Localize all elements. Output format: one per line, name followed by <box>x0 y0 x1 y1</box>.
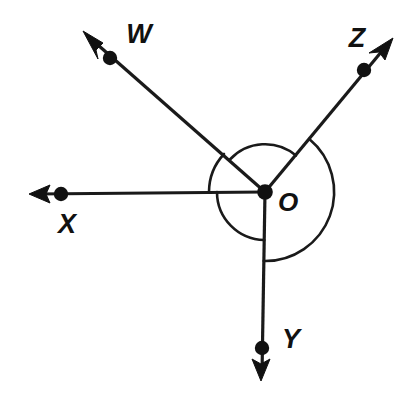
geometry-canvas: W X Y Z <box>0 0 412 405</box>
vertex-label-o: O <box>278 187 298 217</box>
point-dot-x <box>54 187 68 201</box>
ray-label-x: X <box>56 209 78 239</box>
ray-w[interactable]: W <box>83 19 265 192</box>
angle-arc-xoy <box>217 192 264 240</box>
point-dot-o <box>257 184 273 200</box>
rays-group: W X Y Z <box>29 19 393 381</box>
angle-arc-zoy <box>264 139 334 261</box>
angle-arc-woz <box>230 144 296 159</box>
ray-x[interactable]: X <box>29 185 265 239</box>
geometry-diagram: W X Y Z <box>0 0 412 405</box>
ray-label-z: Z <box>348 23 367 53</box>
ray-x-line <box>36 192 265 194</box>
ray-y[interactable]: Y <box>252 192 303 381</box>
arrow-head-w-icon <box>83 31 103 59</box>
angle-arc-woz-left <box>209 154 224 192</box>
point-dot-w <box>103 51 117 65</box>
ray-label-w: W <box>126 19 154 49</box>
arrow-head-z-icon <box>369 38 393 60</box>
point-dot-y <box>255 341 269 355</box>
point-dot-z <box>357 63 371 77</box>
ray-label-y: Y <box>282 324 303 354</box>
